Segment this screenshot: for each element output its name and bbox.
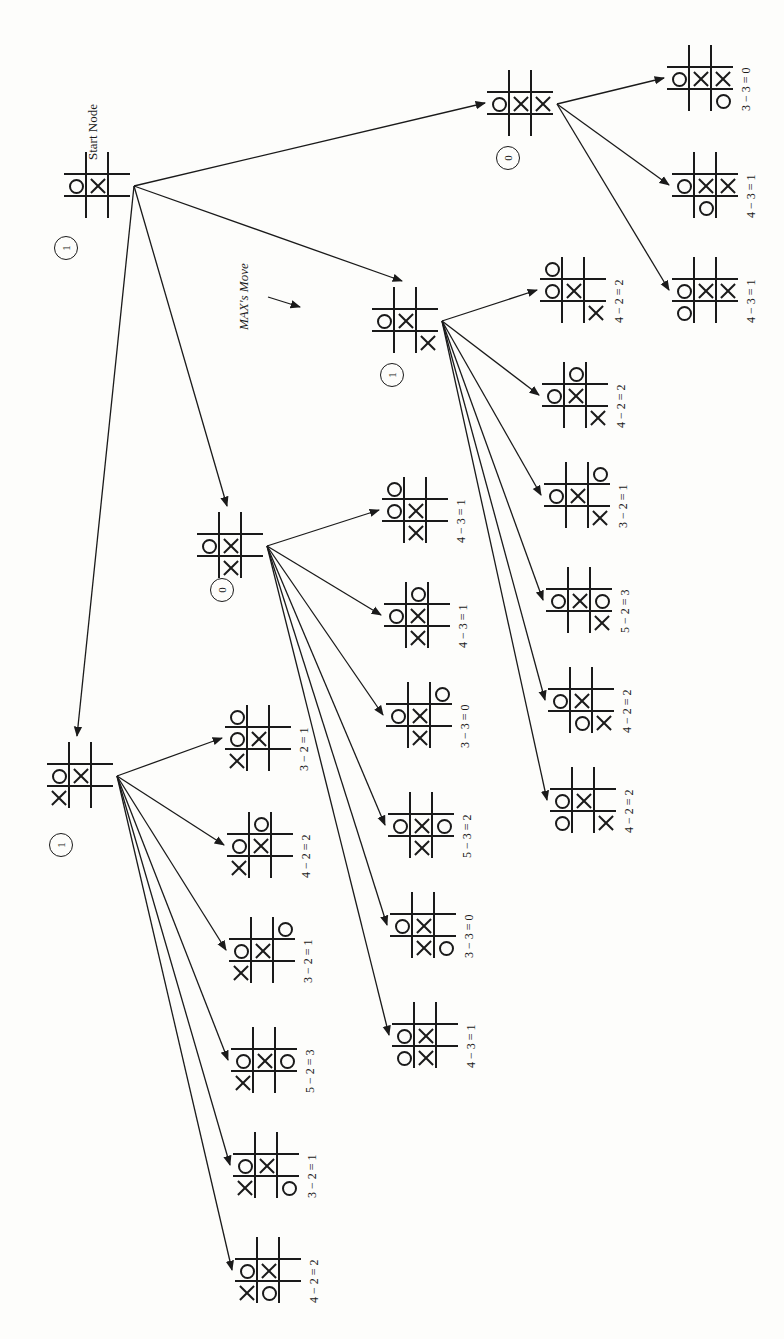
grid-line xyxy=(64,173,130,175)
o-mark-icon xyxy=(674,303,694,323)
tree-edge-arrow xyxy=(442,290,537,321)
tree-edge-arrow xyxy=(267,510,379,546)
x-mark-icon xyxy=(691,69,711,89)
x-mark-icon xyxy=(696,176,716,196)
leaf-board xyxy=(667,45,733,111)
o-mark-icon xyxy=(227,707,247,727)
tree-node-board xyxy=(197,512,263,578)
x-mark-icon xyxy=(418,333,438,353)
x-mark-icon xyxy=(257,1156,277,1176)
o-mark-icon xyxy=(388,706,408,726)
minimax-value-circle: 0 xyxy=(210,578,234,602)
o-mark-icon xyxy=(696,198,716,218)
leaf-board xyxy=(386,682,452,748)
tree-edge-arrow xyxy=(134,186,227,506)
evaluation-label: 3 − 2 = 1 xyxy=(297,727,312,771)
minimax-value-circle: 1 xyxy=(49,833,73,857)
x-mark-icon xyxy=(227,751,247,771)
x-mark-icon xyxy=(533,94,553,114)
leaf-board xyxy=(390,892,456,958)
o-mark-icon xyxy=(713,91,733,111)
evaluation-label: 4 − 2 = 2 xyxy=(612,279,627,323)
x-mark-icon xyxy=(511,94,531,114)
o-mark-icon xyxy=(436,938,456,958)
tree-edge-arrow xyxy=(557,104,669,185)
x-mark-icon xyxy=(233,1073,253,1093)
minimax-value-circle: 1 xyxy=(380,363,404,387)
o-mark-icon xyxy=(394,1048,414,1068)
x-mark-icon xyxy=(251,836,271,856)
tree-edge-arrow xyxy=(117,776,224,845)
tree-edge-arrow xyxy=(117,776,232,1270)
x-mark-icon xyxy=(406,523,426,543)
x-mark-icon xyxy=(259,1261,279,1281)
x-mark-icon xyxy=(414,938,434,958)
o-mark-icon xyxy=(590,464,610,484)
evaluation-label: 3 − 2 = 1 xyxy=(616,484,631,528)
o-mark-icon xyxy=(229,836,249,856)
x-mark-icon xyxy=(713,69,733,89)
x-mark-icon xyxy=(570,591,590,611)
grid-line xyxy=(672,278,738,280)
o-mark-icon xyxy=(231,941,251,961)
x-mark-icon xyxy=(249,729,269,749)
grid-line xyxy=(235,1258,301,1260)
x-mark-icon xyxy=(396,311,416,331)
grid-line xyxy=(390,913,456,915)
x-mark-icon xyxy=(574,791,594,811)
minimax-value-circle: 0 xyxy=(496,146,520,170)
tree-edge-arrow xyxy=(557,78,664,104)
grid-line xyxy=(233,1153,299,1155)
o-mark-icon xyxy=(669,69,689,89)
o-mark-icon xyxy=(432,684,452,704)
leaf-board xyxy=(388,792,454,858)
evaluation-label: 4 − 3 = 1 xyxy=(454,499,469,543)
o-mark-icon xyxy=(550,691,570,711)
leaf-board xyxy=(548,667,614,733)
x-mark-icon xyxy=(49,788,69,808)
grid-line xyxy=(546,588,612,590)
o-mark-icon xyxy=(237,1261,257,1281)
grid-line xyxy=(548,688,614,690)
x-mark-icon xyxy=(564,281,584,301)
x-mark-icon xyxy=(221,558,241,578)
evaluation-label: 4 − 2 = 2 xyxy=(622,789,637,833)
o-mark-icon xyxy=(542,281,562,301)
x-mark-icon xyxy=(237,1283,257,1303)
grid-line xyxy=(197,533,263,535)
leaf-board xyxy=(382,477,448,543)
o-mark-icon xyxy=(251,814,271,834)
tree-edge-arrow xyxy=(442,321,543,600)
evaluation-label: 4 − 2 = 2 xyxy=(614,384,629,428)
leaf-board xyxy=(227,812,293,878)
grid-line xyxy=(47,763,113,765)
o-mark-icon xyxy=(259,1283,279,1303)
leaf-board xyxy=(544,462,610,528)
x-mark-icon xyxy=(410,728,430,748)
x-mark-icon xyxy=(416,1026,436,1046)
o-mark-icon xyxy=(374,311,394,331)
grid-line xyxy=(550,788,616,790)
leaf-board xyxy=(542,362,608,428)
o-mark-icon xyxy=(542,259,562,279)
o-mark-icon xyxy=(390,816,410,836)
leaf-board xyxy=(384,582,450,648)
o-mark-icon xyxy=(384,501,404,521)
grid-line xyxy=(372,308,438,310)
tree-edge-arrow xyxy=(117,776,226,950)
x-mark-icon xyxy=(412,838,432,858)
evaluation-label: 3 − 3 = 0 xyxy=(739,67,754,111)
evaluation-label: 3 − 2 = 1 xyxy=(305,1154,320,1198)
x-mark-icon xyxy=(588,408,608,428)
evaluation-label: 3 − 3 = 0 xyxy=(462,914,477,958)
o-mark-icon xyxy=(546,486,566,506)
grid-line xyxy=(487,91,553,93)
evaluation-label: 4 − 2 = 2 xyxy=(299,834,314,878)
minimax-tree-diagram: 101013 − 3 = 04 − 3 = 14 − 3 = 14 − 2 = … xyxy=(0,0,784,1339)
tree-edge-arrow xyxy=(134,103,485,186)
evaluation-label: 5 − 3 = 2 xyxy=(460,814,475,858)
minimax-value-circle: 1 xyxy=(54,236,78,260)
leaf-board xyxy=(225,705,291,771)
x-mark-icon xyxy=(88,176,108,196)
o-mark-icon xyxy=(199,536,219,556)
